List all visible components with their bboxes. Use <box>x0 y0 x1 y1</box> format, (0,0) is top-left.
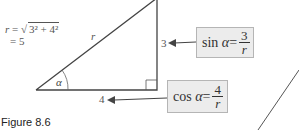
sin-func: sin <box>202 35 218 51</box>
hypotenuse-label: r <box>91 30 95 42</box>
cos-denominator: r <box>215 97 220 110</box>
adjacent-side-label: 4 <box>99 93 105 105</box>
sqrt-icon: √ <box>21 23 27 35</box>
hypotenuse-formula: r = √3² + 4² = 5 <box>5 22 59 47</box>
cos-func: cos <box>173 89 192 105</box>
angle-label: α <box>56 76 62 88</box>
sin-arrow-head <box>168 39 176 47</box>
formula-radicand: 3² + 4² <box>28 22 59 35</box>
cos-arrow-line <box>114 98 167 100</box>
sin-fraction: 3 r <box>239 29 250 56</box>
triangle-diagram <box>0 0 299 130</box>
opposite-side-label: 3 <box>161 37 167 49</box>
cos-var: α <box>195 89 202 105</box>
sin-numerator: 3 <box>239 29 250 43</box>
sin-var: α <box>222 35 229 51</box>
sin-arrow-line <box>174 42 196 43</box>
cos-arrow-head <box>107 96 115 104</box>
formula-equals: = <box>9 23 21 35</box>
figure-caption: Figure 8.6 <box>1 116 51 128</box>
sin-formula-box: sin α= 3 r <box>196 27 254 58</box>
decorative-diagonal-line <box>258 70 299 130</box>
right-angle-marker <box>146 80 157 90</box>
angle-arc <box>62 70 68 90</box>
sin-denominator: r <box>242 43 247 56</box>
cos-numerator: 4 <box>212 83 223 97</box>
sin-eq: = <box>229 35 237 51</box>
cos-fraction: 4 r <box>212 83 223 110</box>
cos-formula-box: cos α= 4 r <box>167 80 228 113</box>
cos-eq: = <box>203 89 211 105</box>
formula-result: = 5 <box>5 35 59 47</box>
